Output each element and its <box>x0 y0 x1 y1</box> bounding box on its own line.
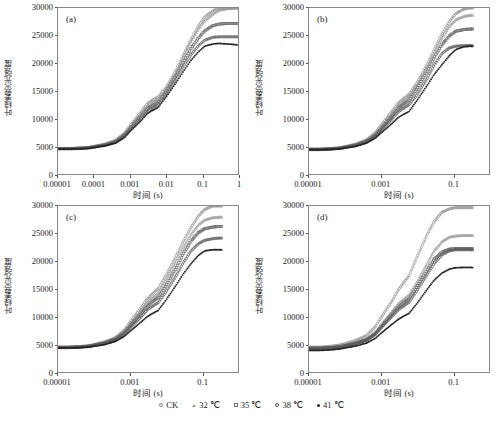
y-tick-label: 25000 <box>32 30 53 40</box>
panel-d: 叶绿素荧光强度 050001000015000200002500030000 (… <box>251 198 502 396</box>
legend-label: 41 ℃ <box>323 400 344 410</box>
x-tick-mark <box>454 175 455 178</box>
series-4 <box>58 237 223 349</box>
x-tick-mark <box>57 373 58 376</box>
legend-item-3: 35 ℃ <box>234 400 262 410</box>
y-tick-label: 5000 <box>36 340 53 350</box>
y-tick-label: 5000 <box>287 142 304 152</box>
series-4 <box>309 44 474 150</box>
legend-item-4: 38 ℃ <box>275 400 303 410</box>
y-tick-label: 25000 <box>283 30 304 40</box>
legend-marker-icon <box>159 403 163 407</box>
x-axis-label-d: 时间 (s) <box>308 386 490 398</box>
y-tick-label: 20000 <box>283 58 304 68</box>
panel-tag-d: (d) <box>317 212 328 222</box>
y-tick-label: 5000 <box>287 340 304 350</box>
panel-tag-b: (b) <box>317 14 328 24</box>
legend-label: 32 ℃ <box>199 400 220 410</box>
y-tick-label: 10000 <box>32 312 53 322</box>
curves-a <box>58 8 238 174</box>
y-tick-label: 25000 <box>32 228 53 238</box>
x-tick-mark <box>454 373 455 376</box>
series-4 <box>58 36 238 150</box>
y-tick-label: 10000 <box>283 312 304 322</box>
series-3 <box>309 248 474 350</box>
series-5 <box>309 266 474 351</box>
legend-label: 38 ℃ <box>282 400 303 410</box>
series-2 <box>58 8 238 150</box>
y-tick-label: 10000 <box>32 114 53 124</box>
y-tick-label: 30000 <box>283 200 304 210</box>
series-3 <box>309 28 474 151</box>
y-axis-ticks-c: 050001000015000200002500030000 <box>14 204 56 374</box>
series-3 <box>58 22 238 149</box>
y-tick-label: 15000 <box>283 284 304 294</box>
y-tick-label: 10000 <box>283 114 304 124</box>
y-tick-label: 30000 <box>32 200 53 210</box>
legend-item-5: 41 ℃ <box>317 400 344 410</box>
x-tick-mark <box>166 175 167 178</box>
x-tick-mark <box>130 373 131 376</box>
y-tick-label: 5000 <box>36 142 53 152</box>
legend-label: CK <box>166 400 178 410</box>
x-tick-mark <box>308 175 309 178</box>
legend-label: 35 ℃ <box>241 400 262 410</box>
x-tick-mark <box>203 175 204 178</box>
y-tick-label: 25000 <box>283 228 304 238</box>
series-1 <box>58 8 238 150</box>
x-tick-mark <box>381 175 382 178</box>
y-axis-ticks-b: 050001000015000200002500030000 <box>265 6 307 176</box>
y-tick-label: 20000 <box>283 256 304 266</box>
y-axis-ticks-d: 050001000015000200002500030000 <box>265 204 307 374</box>
legend-marker-icon <box>192 404 196 407</box>
x-tick-mark <box>93 175 94 178</box>
y-tick-label: 15000 <box>32 284 53 294</box>
x-tick-mark <box>381 373 382 376</box>
plot-area-a: (a) <box>57 7 239 175</box>
x-axis-label-c: 时间 (s) <box>57 386 239 398</box>
legend-marker-icon <box>275 403 279 407</box>
y-axis-ticks-a: 050001000015000200002500030000 <box>14 6 56 176</box>
legend-item-1: CK <box>159 400 178 410</box>
series-4 <box>309 249 474 350</box>
figure-root: 叶绿素荧光强度 050001000015000200002500030000 (… <box>0 0 503 423</box>
figure-legend: CK32 ℃35 ℃38 ℃41 ℃ <box>0 400 503 410</box>
panel-a: 叶绿素荧光强度 050001000015000200002500030000 (… <box>0 0 251 198</box>
series-2 <box>309 14 474 150</box>
series-2 <box>58 216 223 348</box>
y-tick-label: 30000 <box>32 2 53 12</box>
x-tick-mark <box>130 175 131 178</box>
panel-c: 叶绿素荧光强度 050001000015000200002500030000 (… <box>0 198 251 396</box>
x-tick-mark <box>57 175 58 178</box>
x-tick-mark <box>239 175 240 178</box>
legend-item-2: 32 ℃ <box>192 400 220 410</box>
y-tick-label: 20000 <box>32 58 53 68</box>
series-5 <box>58 42 238 150</box>
y-tick-label: 15000 <box>32 86 53 96</box>
panel-tag-a: (a) <box>66 14 76 24</box>
plot-area-c: (c) <box>57 205 239 373</box>
y-tick-label: 20000 <box>32 256 53 266</box>
legend-marker-icon <box>317 404 320 407</box>
series-1 <box>309 207 474 349</box>
series-5 <box>309 45 474 150</box>
panel-tag-c: (c) <box>66 212 76 222</box>
series-5 <box>58 249 223 349</box>
plot-area-d: (d) <box>308 205 490 373</box>
y-tick-label: 15000 <box>283 86 304 96</box>
plot-area-b: (b) <box>308 7 490 175</box>
legend-marker-icon <box>234 403 238 407</box>
curves-b <box>309 8 489 174</box>
panel-b: 叶绿素荧光强度 050001000015000200002500030000 (… <box>251 0 502 198</box>
x-tick-mark <box>203 373 204 376</box>
x-tick-mark <box>308 373 309 376</box>
curves-c <box>58 206 238 372</box>
curves-d <box>309 206 489 372</box>
y-tick-label: 30000 <box>283 2 304 12</box>
